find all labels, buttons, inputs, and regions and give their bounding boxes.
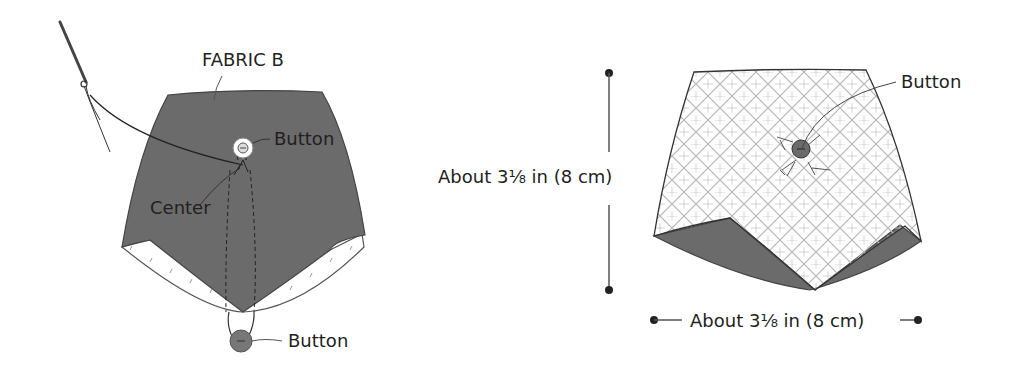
left-pouch: [60, 22, 365, 352]
top-button-label: Button: [274, 130, 334, 148]
width-dimension-label: About 3⅛ in (8 cm): [690, 312, 864, 330]
bottom-button-label: Button: [288, 332, 348, 350]
bottom-button-icon: [230, 330, 252, 352]
right-button-icon: [792, 140, 810, 158]
needle-icon: [60, 22, 86, 82]
flower-button-icon: [233, 138, 253, 158]
diagram-canvas: [0, 0, 1018, 386]
right-button-label: Button: [901, 73, 961, 91]
fabric-b-label: FABRIC B: [202, 51, 284, 69]
right-pouch: [654, 69, 921, 290]
height-dimension-label: About 3⅛ in (8 cm): [438, 168, 612, 186]
center-label: Center: [150, 199, 211, 217]
